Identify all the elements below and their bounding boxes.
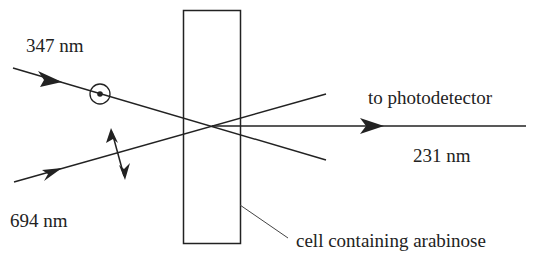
label-694nm: 694 nm xyxy=(10,211,68,230)
polarization-arrow-up-icon xyxy=(106,128,118,143)
optical-setup-diagram: 347 nm 694 nm to photodetector 231 nm ce… xyxy=(0,0,549,260)
label-cell: cell containing arabinose xyxy=(296,231,486,250)
polarization-dot-icon xyxy=(97,91,103,97)
arrowhead-694-icon xyxy=(42,168,62,181)
cell-leader-line xyxy=(240,205,288,238)
label-231nm: 231 nm xyxy=(413,146,471,165)
label-to-photodetector: to photodetector xyxy=(368,88,492,107)
arrowhead-347-icon xyxy=(38,71,62,87)
label-347nm: 347 nm xyxy=(26,36,84,55)
